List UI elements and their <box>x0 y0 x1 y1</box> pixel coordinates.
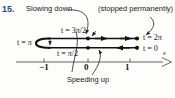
point-t-2pi <box>135 36 139 40</box>
label-t-pi: t = π <box>17 39 32 47</box>
label-t-pi-over-2: t = π/2 <box>57 50 78 58</box>
point-t-3pi-over-2 <box>86 37 90 41</box>
annotation-stopped-permanently: (stopped permanently) <box>98 5 154 13</box>
leader-t-3pi-over-2 <box>92 31 96 36</box>
leader-lines <box>50 10 154 75</box>
annotation-speeding-up: Speeding up <box>66 76 110 84</box>
label-t-0: t = 0 <box>143 45 158 53</box>
point-t-pi-over-2 <box>86 46 90 50</box>
label-t-2pi: t = 2π <box>143 34 162 42</box>
label-t-3pi-over-2: t = 3π/2 <box>61 27 86 35</box>
point-t-0 <box>135 46 139 50</box>
axis-tick-label-1: 1 <box>125 63 130 72</box>
turnaround-loop-left <box>36 39 50 48</box>
motion-path <box>36 36 139 50</box>
axis-tick-label-0: 0 <box>84 63 89 72</box>
axis-tick-label-neg1: −1 <box>39 63 49 72</box>
annotation-slowing-down: Slowing down <box>26 5 68 13</box>
axis-arrowhead <box>162 58 172 67</box>
axis-name-label: s <box>163 50 166 57</box>
motion-diagram-figure: 15. Slowing down (stopped permanently) S… <box>0 0 175 98</box>
problem-number: 15. <box>2 5 15 14</box>
leader-speeding-up <box>92 50 100 75</box>
